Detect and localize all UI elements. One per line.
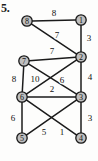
graph-node: 2 bbox=[76, 52, 86, 62]
graph-node: 7 bbox=[19, 56, 29, 66]
node-label: 4 bbox=[79, 134, 83, 143]
graph-edge bbox=[29, 57, 76, 60]
node-label: 6 bbox=[20, 93, 24, 102]
edge-weight-label: 10 bbox=[31, 74, 41, 84]
edge-weight-label: 6 bbox=[60, 75, 65, 85]
graph-node: 8 bbox=[22, 16, 32, 26]
graph-node: 1 bbox=[76, 15, 86, 25]
node-label: 8 bbox=[25, 17, 29, 26]
graph-node: 3 bbox=[76, 92, 86, 102]
node-label: 5 bbox=[20, 134, 24, 143]
edge-weight-label: 7 bbox=[50, 46, 55, 56]
edge-weight-label: 8 bbox=[12, 74, 17, 84]
edge-weight-label: 8 bbox=[52, 8, 57, 18]
edge-weight-label: 5 bbox=[42, 127, 47, 137]
edge-weight-label: 1 bbox=[60, 127, 65, 137]
node-label: 2 bbox=[79, 53, 83, 62]
edge-weight-label: 3 bbox=[88, 113, 93, 123]
weighted-graph-diagram: 81726354 8877337788101066442266115533 bbox=[0, 0, 98, 161]
edge-weight-label: 3 bbox=[87, 33, 92, 43]
graph-figure: 5. 81726354 8877337788101066442266115533 bbox=[0, 0, 98, 161]
graph-edge bbox=[22, 66, 23, 92]
edge-weight-label: 6 bbox=[11, 113, 16, 123]
graph-edge bbox=[32, 20, 76, 21]
node-label: 1 bbox=[79, 16, 83, 25]
node-label: 3 bbox=[79, 93, 83, 102]
edge-weight-label: 7 bbox=[55, 30, 60, 40]
node-label: 7 bbox=[22, 57, 26, 66]
graph-node: 4 bbox=[76, 133, 86, 143]
graph-node: 5 bbox=[17, 133, 27, 143]
edge-weight-label: 4 bbox=[88, 72, 93, 82]
graph-node: 6 bbox=[17, 92, 27, 102]
edge-weight-label: 2 bbox=[50, 84, 55, 94]
